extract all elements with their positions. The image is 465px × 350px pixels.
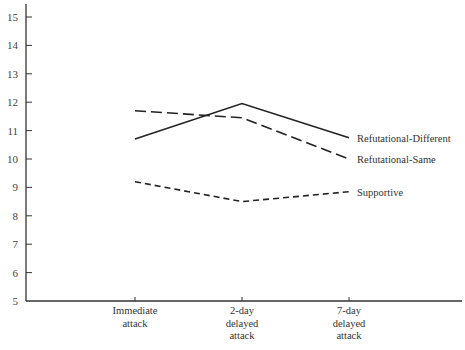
x-category-label: Immediateattack bbox=[113, 305, 158, 329]
y-tick-label: 8 bbox=[13, 210, 19, 222]
x-category-label: 2-daydelayedattack bbox=[226, 305, 259, 341]
series-line-supportive bbox=[135, 182, 349, 202]
y-tick-label: 11 bbox=[7, 125, 18, 137]
series-labels: Refutational-DifferentRefutational-SameS… bbox=[357, 133, 451, 198]
series-label: Refutational-Same bbox=[357, 154, 436, 165]
x-axis-ticks: Immediateattack2-daydelayedattack7-dayde… bbox=[113, 297, 367, 341]
line-chart: 56789101112131415 Immediateattack2-dayde… bbox=[0, 0, 465, 350]
y-tick-label: 14 bbox=[7, 39, 19, 51]
y-tick-label: 10 bbox=[7, 153, 19, 165]
y-axis-ticks: 56789101112131415 bbox=[7, 11, 32, 307]
y-tick-label: 6 bbox=[13, 267, 19, 279]
y-tick-label: 5 bbox=[13, 295, 19, 307]
series-line-refutational-same bbox=[135, 111, 349, 159]
axes bbox=[26, 4, 462, 301]
x-category-label: 7-daydelayedattack bbox=[333, 305, 366, 341]
y-tick-label: 15 bbox=[7, 11, 19, 23]
series-label: Refutational-Different bbox=[357, 133, 451, 144]
y-tick-label: 12 bbox=[7, 96, 18, 108]
y-tick-label: 13 bbox=[7, 68, 19, 80]
y-tick-label: 9 bbox=[13, 181, 19, 193]
series-label: Supportive bbox=[357, 187, 403, 198]
data-series bbox=[135, 104, 349, 202]
y-tick-label: 7 bbox=[13, 238, 19, 250]
series-line-refutational-different bbox=[135, 104, 349, 140]
